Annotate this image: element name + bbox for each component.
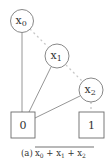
edge-x2-t0-solid bbox=[35, 96, 80, 118]
edge-x0-x1-dashed bbox=[30, 29, 48, 47]
terminal-1: 1 bbox=[79, 112, 104, 138]
caption-expression: x0 + x1 + x2 bbox=[35, 148, 86, 159]
terminal-0-label: 0 bbox=[20, 119, 27, 132]
edge-x1-x2-dashed bbox=[66, 65, 82, 81]
node-x2: x2 bbox=[79, 78, 103, 102]
node-x1: x1 bbox=[45, 44, 69, 68]
terminal-1-label: 1 bbox=[88, 119, 95, 132]
caption: (a) x0 + x1 + x2 bbox=[21, 147, 94, 159]
node-x0: x0 bbox=[11, 10, 34, 33]
edge-x1-t0-solid bbox=[29, 67, 51, 112]
caption-prefix: (a) bbox=[21, 148, 33, 158]
terminal-0: 0 bbox=[11, 112, 35, 138]
bdd-diagram: x0 x1 x2 0 1 (a) x0 + x1 + x2 bbox=[0, 0, 112, 165]
